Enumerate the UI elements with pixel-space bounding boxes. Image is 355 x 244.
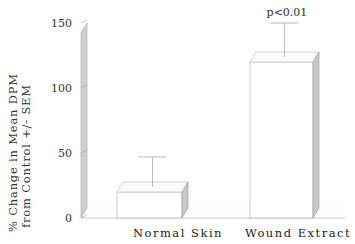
bar-group — [250, 23, 319, 218]
y-tick-label: 50 — [58, 147, 72, 160]
bar-side — [313, 52, 319, 218]
bar-group — [117, 157, 188, 218]
y-tick-mark — [81, 20, 87, 23]
y-axis-label: % Change in Mean DPM from Control +/- SE… — [6, 73, 33, 232]
bar — [250, 62, 313, 218]
x-tick-label: Wound Extract — [245, 226, 351, 240]
y-tick-label: 0 — [65, 212, 72, 225]
significance-annotation: p<0.01 — [267, 6, 308, 19]
y-axis-label-line1: % Change in Mean DPM — [6, 73, 20, 232]
bar — [117, 192, 182, 218]
y-tick-label: 100 — [51, 82, 72, 95]
y-axis-label-line2: from Control +/- SEM — [19, 84, 33, 228]
y-axis-wall — [81, 23, 87, 218]
y-tick-label: 150 — [51, 17, 72, 30]
x-tick-label: Normal Skin — [133, 226, 223, 240]
bar-chart: % Change in Mean DPM from Control +/- SE… — [0, 0, 355, 244]
